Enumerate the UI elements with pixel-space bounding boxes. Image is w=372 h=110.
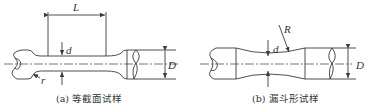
label-d: d xyxy=(66,44,72,56)
profile-bottom-right xyxy=(106,71,172,79)
funnel-profile-top xyxy=(236,48,305,53)
label-D: D xyxy=(167,59,176,71)
break-line-left xyxy=(210,48,216,79)
caption-a: (a) 等截面试样 xyxy=(56,93,122,104)
label-L: L xyxy=(72,1,79,13)
panel-a-constant-section-specimen: L d D r (a) 等截面试样 xyxy=(4,1,178,104)
funnel-profile-bottom xyxy=(236,74,305,79)
label-d: d xyxy=(273,43,279,55)
label-R: R xyxy=(283,23,291,35)
leader-r xyxy=(33,74,40,78)
profile-top xyxy=(22,50,106,56)
label-r: r xyxy=(41,74,46,86)
label-D: D xyxy=(355,59,364,71)
panel-b-funnel-specimen: d R D (b) 漏斗形试样 xyxy=(200,23,364,104)
caption-b: (b) 漏斗形试样 xyxy=(252,93,319,104)
specimen-diagram: L d D r (a) 等截面试样 d xyxy=(0,0,372,110)
